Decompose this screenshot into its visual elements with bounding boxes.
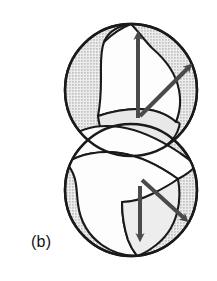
figure-container: (b) bbox=[0, 0, 217, 281]
panel-label: (b) bbox=[31, 233, 51, 251]
